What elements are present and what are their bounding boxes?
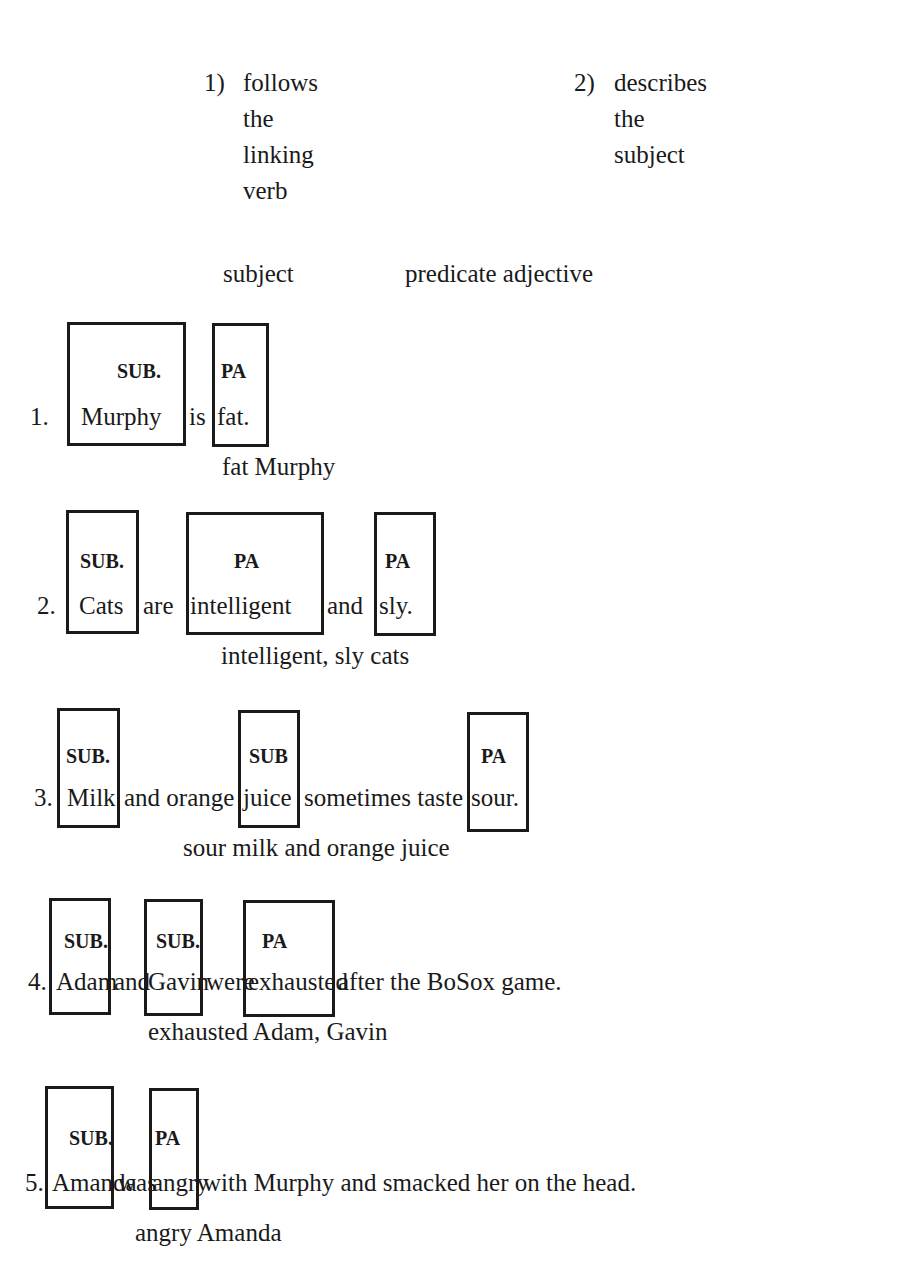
word: and orange bbox=[124, 783, 234, 813]
word: Milk bbox=[67, 783, 116, 813]
subject-label: SUB. bbox=[66, 745, 110, 768]
word: angry bbox=[152, 1168, 209, 1198]
word: with Murphy and smacked her on the head. bbox=[203, 1168, 636, 1198]
predicate-adjective-box bbox=[243, 900, 335, 1017]
sentence-number: 3. bbox=[34, 783, 53, 813]
word: intelligent bbox=[190, 591, 291, 621]
criterion-line: the bbox=[243, 104, 274, 134]
word: sly. bbox=[379, 591, 413, 621]
criterion-line: linking bbox=[243, 140, 314, 170]
criterion-line: describes bbox=[614, 68, 707, 98]
subject-box bbox=[144, 899, 203, 1016]
sentence-number: 2. bbox=[37, 591, 56, 621]
heading-predicate-adjective: predicate adjective bbox=[405, 259, 593, 289]
word: Cats bbox=[79, 591, 123, 621]
word: Murphy bbox=[81, 402, 162, 432]
answer: sour milk and orange juice bbox=[183, 833, 450, 863]
word: sour. bbox=[471, 783, 519, 813]
subject-label: SUB. bbox=[69, 1127, 113, 1150]
predicate-adjective-box bbox=[467, 712, 529, 832]
sentence-number: 4. bbox=[28, 967, 47, 997]
pa-label: PA bbox=[262, 930, 287, 953]
answer: intelligent, sly cats bbox=[221, 641, 409, 671]
criterion-number: 1) bbox=[204, 68, 225, 98]
word: sometimes taste bbox=[304, 783, 463, 813]
word: is bbox=[189, 402, 206, 432]
word: and bbox=[114, 967, 150, 997]
word: after the BoSox game. bbox=[338, 967, 562, 997]
subject-label: SUB. bbox=[117, 360, 161, 383]
answer: angry Amanda bbox=[135, 1218, 281, 1248]
subject-label: SUB. bbox=[80, 550, 124, 573]
pa-label: PA bbox=[155, 1127, 180, 1150]
subject-label: SUB. bbox=[64, 930, 108, 953]
word: juice bbox=[243, 783, 292, 813]
criterion-number: 2) bbox=[574, 68, 595, 98]
word: fat. bbox=[217, 402, 250, 432]
heading-subject: subject bbox=[223, 259, 294, 289]
subject-label: SUB. bbox=[156, 930, 200, 953]
pa-label: PA bbox=[234, 550, 259, 573]
pa-label: PA bbox=[221, 360, 246, 383]
criterion-line: follows bbox=[243, 68, 318, 98]
criterion-line: the bbox=[614, 104, 645, 134]
subject-label: SUB bbox=[249, 745, 288, 768]
criterion-line: verb bbox=[243, 176, 287, 206]
pa-label: PA bbox=[385, 550, 410, 573]
word: Gavin bbox=[148, 967, 209, 997]
subject-box bbox=[49, 898, 111, 1015]
word: and bbox=[327, 591, 363, 621]
sentence-number: 5. bbox=[25, 1168, 44, 1198]
word: exhausted bbox=[248, 967, 348, 997]
criterion-line: subject bbox=[614, 140, 685, 170]
word: are bbox=[143, 591, 174, 621]
answer: fat Murphy bbox=[222, 452, 335, 482]
sentence-number: 1. bbox=[30, 402, 49, 432]
answer: exhausted Adam, Gavin bbox=[148, 1017, 388, 1047]
word: Adam bbox=[56, 967, 117, 997]
pa-label: PA bbox=[481, 745, 506, 768]
